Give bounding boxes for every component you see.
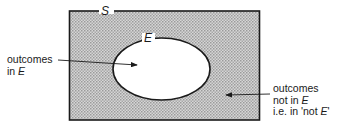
left-annotation: outcomes in E [7, 54, 53, 77]
sample-space-label: S [101, 4, 109, 18]
event-label: E [144, 31, 153, 45]
event-ellipse [113, 38, 210, 100]
right-var3: E [321, 105, 328, 117]
right-annotation: outcomes not in E i.e. in 'not E' [273, 83, 330, 118]
right-suffix3: ' [328, 105, 330, 117]
right-prefix3: i.e. in 'not [273, 105, 321, 117]
right-var: E [302, 94, 309, 106]
left-annotation-line2: in E [7, 66, 53, 78]
right-prefix: not in [273, 94, 302, 106]
left-prefix: in [7, 65, 18, 77]
right-annotation-line3: i.e. in 'not E' [273, 106, 330, 118]
left-var: E [18, 65, 25, 77]
